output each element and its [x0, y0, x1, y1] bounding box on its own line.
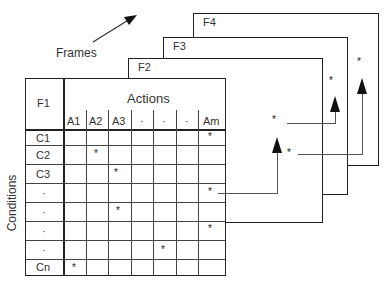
frame-f2-mark-1: *: [272, 115, 276, 125]
col-line: [198, 110, 199, 275]
link-f1-f2-h: [218, 193, 278, 194]
arrow-up-icon: [272, 137, 282, 153]
mark-r6-am: *: [208, 224, 212, 234]
actions-header: Actions: [127, 91, 170, 106]
col-line: [131, 110, 132, 275]
col-header-dot: ·: [185, 115, 189, 127]
col-header-a3: A3: [112, 115, 125, 127]
link-f2-f4-v: [362, 90, 363, 155]
row-header-dot: ·: [42, 187, 46, 199]
link-f2-f3-h: [287, 123, 335, 124]
row-line: [26, 145, 225, 146]
row-header-dot: ·: [42, 244, 46, 256]
frame-f4-mark: *: [357, 57, 361, 67]
row-line: [26, 183, 225, 184]
row-header-c3: C3: [36, 168, 50, 180]
mark-cn-a1: *: [72, 263, 76, 273]
col-line: [176, 110, 177, 275]
row-line: [26, 164, 225, 165]
mark-r5-a3: *: [116, 206, 120, 216]
row-line: [26, 221, 225, 222]
mark-c1-am: *: [208, 132, 212, 142]
col-header-dot: ·: [140, 115, 144, 127]
row-header-c2: C2: [36, 149, 50, 161]
row-header-dot: ·: [42, 225, 46, 237]
frame-f3-mark: *: [329, 76, 333, 86]
row-header-cn: Cn: [36, 261, 50, 273]
frame-f4-label: F4: [203, 16, 216, 28]
col-header-a2: A2: [89, 115, 102, 127]
row-line: [26, 202, 225, 203]
col-line: [86, 110, 87, 275]
arrow-up-icon: [357, 78, 367, 94]
col-header-am: Am: [203, 115, 220, 127]
header-divider: [26, 129, 225, 131]
frame-f3-label: F3: [173, 40, 186, 52]
arrow-up-icon: [330, 96, 340, 112]
link-f2-f4-h: [298, 154, 362, 155]
frame-f2-mark-2: *: [287, 148, 291, 158]
mark-r7-dot: *: [161, 245, 165, 255]
link-f1-f2-v: [277, 150, 278, 194]
conditions-label: Conditions: [5, 171, 19, 235]
decision-table-f1: F1 Actions A1 A2 A3 · · · Am C1 C2 C3 · …: [25, 78, 226, 276]
row-header-divider: [63, 79, 65, 275]
row-line: [26, 259, 225, 260]
row-line: [26, 240, 225, 241]
table-corner-label: F1: [37, 97, 50, 109]
col-header-dot: ·: [162, 115, 166, 127]
col-header-a1: A1: [67, 115, 80, 127]
row-header-c1: C1: [36, 132, 50, 144]
row-header-dot: ·: [42, 206, 46, 218]
mark-r4-am: *: [208, 187, 212, 197]
frame-f2-label: F2: [138, 61, 151, 73]
col-line: [108, 110, 109, 275]
col-line: [153, 110, 154, 275]
mark-c3-a3: *: [114, 168, 118, 178]
mark-c2-a2: *: [94, 149, 98, 159]
